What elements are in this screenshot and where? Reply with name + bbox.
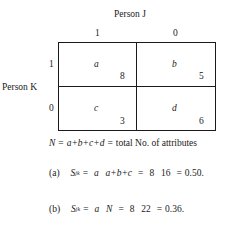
equals-sign: = (138, 168, 143, 178)
similarity-subscript: jk (75, 170, 79, 176)
formula-b-label: (b) (49, 204, 60, 214)
column-label-1: 1 (95, 28, 100, 38)
numerator: a (93, 168, 100, 179)
table-border-bottom (58, 130, 216, 131)
denominator: 16 (160, 168, 172, 179)
equals-sign: = (118, 204, 123, 214)
numerator: 8 (148, 168, 155, 179)
equals-sign: = (83, 204, 88, 214)
formula-b: (b) Sjk = a N = 8 22 = 0.36. (49, 196, 184, 222)
table-border-right (215, 42, 216, 131)
n-definition: N = a+b+c+d = total No. of attributes (49, 136, 197, 150)
fraction-symbolic: a N (94, 204, 114, 215)
sum-expression: a+b+c+d (67, 138, 105, 148)
formula-a: (a) Sjk = a a+b+c = 8 16 = 0.50. (49, 160, 204, 186)
result-value: 0.50. (185, 168, 204, 178)
cell-b-value: 5 (199, 71, 204, 81)
table-border-left (58, 42, 59, 131)
table-divider-vertical (136, 42, 137, 131)
equals-sign: = (157, 204, 162, 214)
row-label-0: 0 (49, 103, 54, 113)
row-header-person-k: Person K (2, 82, 37, 92)
row-label-1: 1 (49, 59, 54, 69)
fraction-symbolic: a a+b+c (93, 168, 133, 179)
definition-text: total No. of attributes (116, 138, 197, 148)
equals-sign: = (107, 138, 112, 148)
table-divider-horizontal (58, 86, 216, 87)
cell-d-symbol: d (172, 103, 177, 113)
cell-a-value: 8 (120, 71, 125, 81)
fraction-numeric: 8 16 (148, 168, 171, 179)
table-border-top (58, 42, 216, 43)
result-value: 0.36. (165, 204, 184, 214)
denominator: N (105, 204, 113, 215)
equals-sign: = (83, 168, 88, 178)
fraction-numeric: 8 22 (129, 204, 152, 215)
cell-c-value: 3 (120, 116, 125, 126)
column-header-person-j: Person J (114, 9, 146, 19)
similarity-subscript: jk (76, 206, 80, 212)
cell-d-value: 6 (199, 116, 204, 126)
denominator: 22 (140, 204, 152, 215)
column-label-0: 0 (173, 28, 178, 38)
equals-sign: = (176, 168, 181, 178)
equals-sign: = (58, 138, 63, 148)
formula-a-label: (a) (49, 168, 60, 178)
denominator: a+b+c (105, 168, 134, 179)
cell-c-symbol: c (94, 103, 98, 113)
n-symbol: N (49, 138, 55, 148)
cell-a-symbol: a (94, 59, 99, 69)
cell-b-symbol: b (172, 59, 177, 69)
numerator: 8 (129, 204, 136, 215)
numerator: a (94, 204, 101, 215)
